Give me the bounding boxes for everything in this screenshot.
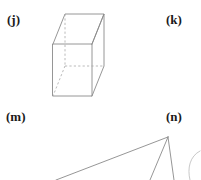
arc-figure bbox=[189, 151, 200, 180]
part-label-n: (n) bbox=[166, 110, 182, 123]
part-label-j: (j) bbox=[7, 13, 20, 26]
cuboid-figure bbox=[53, 14, 104, 96]
pyramid-right-slant-edge bbox=[168, 137, 174, 180]
figure-panel: (j) (k) (m) (n) bbox=[0, 0, 201, 180]
pyramid-figure bbox=[56, 137, 174, 180]
cuboid-top-face bbox=[53, 14, 104, 44]
pyramid-middle-slant-edge bbox=[150, 137, 168, 180]
part-label-k: (k) bbox=[166, 13, 182, 26]
part-label-m: (m) bbox=[6, 110, 26, 123]
partial-arc-edge bbox=[189, 151, 200, 180]
cuboid-right-face bbox=[92, 14, 104, 96]
figures-canvas bbox=[0, 0, 201, 180]
cuboid-front-face bbox=[53, 44, 92, 96]
cuboid-hidden-bottom-diagonal-edge bbox=[53, 66, 65, 96]
pyramid-left-slant-edge bbox=[56, 137, 168, 180]
